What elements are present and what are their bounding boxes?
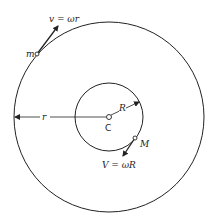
- center-label: C: [105, 123, 111, 133]
- rotation-diagram: r R C m v = ωr M V = ωR: [0, 0, 213, 224]
- outer-mass-point: [35, 52, 39, 56]
- outer-mass-label: m: [26, 49, 35, 59]
- inner-radius-label: R: [118, 103, 126, 113]
- outer-radius-label: r: [42, 112, 47, 122]
- inner-mass-label: M: [139, 139, 150, 149]
- inner-velocity-label: V = ωR: [102, 160, 136, 170]
- center-point: [107, 115, 112, 120]
- inner-mass-point: [133, 136, 137, 140]
- outer-velocity-arrow: [37, 26, 58, 54]
- outer-velocity-label: v = ωr: [49, 14, 80, 24]
